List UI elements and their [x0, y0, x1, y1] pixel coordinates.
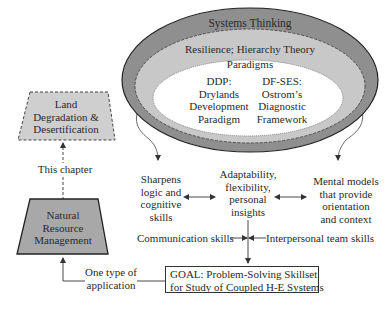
- land-line3: Desertification: [20, 123, 112, 136]
- application-line2: application: [85, 279, 137, 292]
- goal-line1: GOAL: Problem-Solving Skillset: [170, 268, 314, 281]
- communication-skills-label: Communication skills: [137, 232, 229, 245]
- resilience-label: Resilience; Hierarchy Theory: [180, 43, 320, 56]
- dfses-line1: DF-SES:: [250, 75, 314, 88]
- nrm-line3: Management: [20, 234, 106, 247]
- land-degradation-label: Land Degradation & Desertification: [20, 98, 112, 136]
- adaptability-label: Adaptability, flexibility, personal insi…: [218, 168, 278, 218]
- nrm-label: Natural Resource Management: [20, 209, 106, 247]
- ddp-label: DDP: Drylands Development Paradigm: [189, 75, 249, 125]
- adaptability-line1: Adaptability,: [218, 168, 278, 181]
- sharpens-line1: Sharpens: [136, 173, 186, 186]
- goal-box: GOAL: Problem-Solving Skillset for Study…: [165, 266, 319, 293]
- paradigms-label: Paradigms: [215, 58, 285, 71]
- sharpens-line2: logic and: [136, 186, 186, 199]
- this-chapter-label: This chapter: [30, 163, 100, 176]
- dfses-line3: Diagnostic: [250, 100, 314, 113]
- mental-line1: Mental models: [306, 175, 386, 188]
- land-line1: Land: [20, 98, 112, 111]
- ddp-line2: Drylands: [189, 88, 249, 101]
- mental-line3: orientation: [306, 200, 386, 213]
- nrm-line1: Natural: [20, 209, 106, 222]
- systems-thinking-label: Systems Thinking: [200, 17, 300, 30]
- land-line2: Degradation &: [20, 111, 112, 124]
- sharpens-line3: cognitive: [136, 198, 186, 211]
- mental-line2: that provide: [306, 188, 386, 201]
- dfses-line4: Framework: [250, 113, 314, 126]
- dfses-label: DF-SES: Ostrom’s Diagnostic Framework: [250, 75, 314, 125]
- ddp-line1: DDP:: [189, 75, 249, 88]
- sharpens-line4: skills: [136, 211, 186, 224]
- mental-line4: and context: [306, 213, 386, 226]
- application-label: One type of application: [85, 266, 137, 291]
- mental-models-label: Mental models that provide orientation a…: [306, 175, 386, 225]
- interpersonal-skills-label: Interpersonal team skills: [266, 232, 376, 245]
- application-line1: One type of: [85, 266, 137, 279]
- adaptability-line3: personal: [218, 193, 278, 206]
- sharpens-label: Sharpens logic and cognitive skills: [136, 173, 186, 223]
- adaptability-line4: insights: [218, 206, 278, 219]
- ddp-line4: Paradigm: [189, 113, 249, 126]
- adaptability-line2: flexibility,: [218, 181, 278, 194]
- nrm-line2: Resource: [20, 222, 106, 235]
- goal-line2: for Study of Coupled H-E Systems: [170, 281, 314, 294]
- dfses-line2: Ostrom’s: [250, 88, 314, 101]
- ddp-line3: Development: [189, 100, 249, 113]
